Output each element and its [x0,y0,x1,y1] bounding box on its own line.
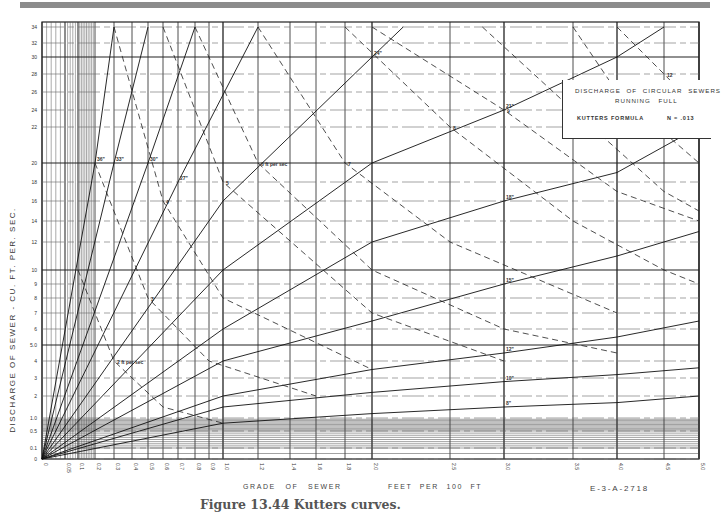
y-tick-label: 16 [31,198,37,204]
n-value: N = .013 [667,115,694,121]
pipe-diameter-label: 10" [506,375,515,381]
x-tick-label: 0 [43,463,49,466]
y-tick-label: 0.1 [30,445,37,451]
title-line-2: RUNNING FULL [615,97,678,104]
velocity-label: 2 ft per sec [117,359,144,365]
pipe-diameter-label: 36" [97,156,106,162]
drawing-number: E-3-A-2718 [590,484,649,493]
y-tick-label: 1.0 [30,415,37,421]
x-tick-label: 1.2 [259,463,265,470]
y-tick-label: 2 [34,393,37,399]
y-tick-label: 7 [34,310,37,316]
x-axis-label-right: FEET PER 100 FT [388,483,482,490]
x-tick-label: 0.9 [210,463,216,470]
figure-caption: Figure 13.44 Kutters curves. [200,497,401,512]
x-tick-label: 0.5 [149,463,155,470]
x-tick-label: 2.0 [373,463,379,470]
y-tick-label: 32 [31,40,37,46]
y-tick-label: 4 [34,358,37,364]
x-tick-label: 1.4 [291,463,297,470]
x-tick-label: 3.0 [505,463,511,470]
kutters-nomograph: 00.10.51.02345.0678910121416182022242628… [0,0,721,521]
y-tick-label: 0 [34,456,37,462]
pipe-diameter-label: 12" [506,346,515,352]
pipe-diameter-label: 24" [374,50,383,56]
y-tick-label: 28 [31,71,37,77]
x-tick-label: 2.5 [451,463,457,470]
pipe-diameter-label: 33" [116,156,125,162]
x-tick-label: 0.8 [196,463,202,470]
x-tick-label: 0.1 [79,463,85,470]
x-tick-label: 0.3 [115,463,121,470]
y-tick-label: 10 [31,267,37,273]
y-axis-label: DISCHARGE OF SEWER - CU. FT. PER. SEC. [4,200,20,440]
x-axis-label-left: GRADE OF SEWER [243,483,342,490]
x-tick-label: 5.0 [700,463,706,470]
y-tick-label: 20 [31,160,37,166]
y-tick-label: 5.0 [30,342,37,348]
velocity-label: 9 [507,108,510,114]
pipe-diameter-label: 30" [150,156,159,162]
title-line-1: DISCHARGE OF CIRCULAR SEWERS [575,87,721,94]
x-tick-label: 4.5 [665,463,671,470]
velocity-label: 6 ft per sec [261,161,288,167]
x-tick-label: 3.5 [574,463,580,470]
x-tick-label: 0.2 [96,463,102,470]
x-tick-label: 0.7 [179,463,185,470]
velocity-label: 7 [348,161,351,167]
y-tick-label: 9 [34,281,37,287]
y-tick-label: 12 [31,239,37,245]
y-tick-label: 34 [31,24,37,30]
velocity-label: 3 [151,296,154,302]
velocity-label: 8 [453,125,456,131]
y-tick-label: 6 [34,326,37,332]
y-tick-label: 0.5 [30,428,37,434]
y-tick-label: 3 [34,375,37,381]
x-tick-label: 4.0 [618,463,624,470]
y-tick-label: 22 [31,124,37,130]
pipe-diameter-label: 27" [180,175,189,181]
formula-label: KUTTERS FORMULA [577,115,644,121]
x-tick-label: 1.0 [224,463,230,470]
y-tick-label: 14 [31,218,37,224]
y-tick-label: 18 [31,179,37,185]
x-tick-label: 0.05 [66,463,72,473]
velocity-label: 12 [667,72,673,78]
x-tick-label: 0.4 [133,463,139,470]
pipe-diameter-label: 18" [506,194,515,200]
y-tick-label: 30 [31,54,37,60]
pipe-diameter-label: 15" [506,277,515,283]
y-tick-label: 8 [34,295,37,301]
x-tick-label: 1.6 [317,463,323,470]
y-axis-label-text: DISCHARGE OF SEWER - CU. FT. PER. SEC. [8,207,17,432]
velocity-label: 5 [226,180,229,186]
pipe-diameter-label: 8" [506,400,512,406]
x-tick-label: 1.8 [346,463,352,470]
x-tick-label: 0.6 [164,463,170,470]
y-tick-label: 26 [31,89,37,95]
chart-title-box: DISCHARGE OF CIRCULAR SEWERS RUNNING FUL… [562,80,711,139]
y-tick-label: 24 [31,107,37,113]
velocity-label: 4 [166,199,169,205]
